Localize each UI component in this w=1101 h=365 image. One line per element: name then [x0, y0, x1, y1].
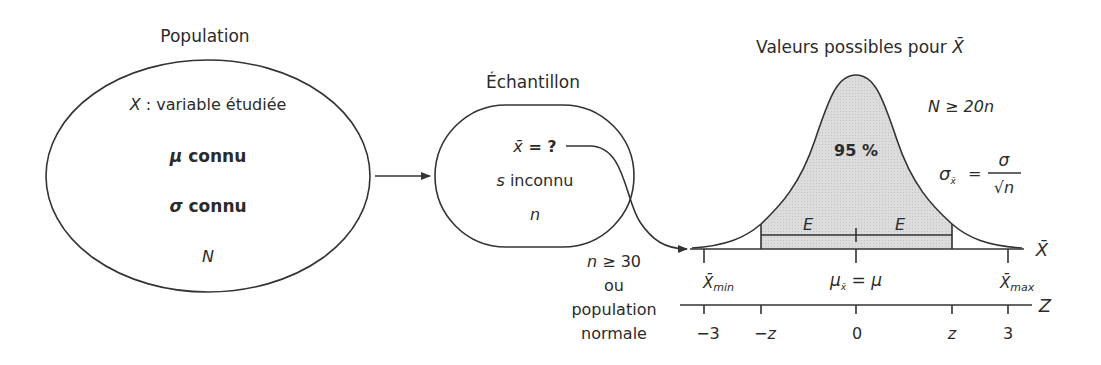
distribution-title-text: Valeurs possibles pour: [756, 37, 947, 57]
sigma-text: connu: [183, 196, 247, 216]
population-title: Population: [160, 26, 249, 46]
s-symbol: s: [496, 171, 504, 190]
std-error-denominator: √n: [994, 178, 1014, 197]
clt-condition: n ≥ 30 ou population normale: [571, 252, 656, 343]
mu-symbol: μ: [169, 146, 183, 166]
sample-size: n: [530, 205, 540, 224]
condition-line-2: ou: [604, 276, 624, 295]
finite-population-condition: N ≥ 20n: [928, 97, 994, 116]
xbar-max-symbol: X̄: [999, 273, 1011, 292]
distribution-title-symbol: X̄: [951, 36, 964, 57]
z-label-0: 0: [852, 324, 862, 343]
population-size: N: [202, 247, 214, 266]
s-text: inconnu: [505, 171, 574, 190]
condition-line-1: n ≥ 30: [587, 252, 641, 271]
sample-mean-unknown: x̄ = ?: [512, 137, 556, 156]
condition-line-3: population: [571, 300, 656, 319]
distribution-title: Valeurs possibles pour X̄: [756, 36, 964, 57]
population-sigma-known: σ connu: [169, 196, 246, 216]
xbar-axis-label: X̄: [1035, 239, 1049, 260]
arrow-sample-to-distribution: [566, 146, 687, 249]
sample-group: Échantillon x̄ = ? s inconnu n: [435, 71, 634, 247]
population-variable: X : variable étudiée: [129, 95, 287, 114]
condition-n-symbol: n: [587, 252, 597, 271]
std-error-subscript: x̄: [949, 176, 956, 186]
xbar-max-label: X̄max: [999, 273, 1035, 294]
condition-line-4: normale: [581, 324, 647, 343]
mu-text: connu: [182, 146, 246, 166]
std-error-lhs: σx̄: [939, 163, 956, 186]
population-group: Population X : variable étudiée μ connu …: [46, 26, 370, 292]
z-axis-label: Z: [1038, 295, 1052, 316]
mu-xbar-rhs: = μ: [846, 270, 882, 290]
margin-right-label: E: [895, 215, 906, 234]
std-error-sigma: σ: [939, 163, 951, 184]
xbar-min-sub: min: [713, 281, 734, 294]
std-error-numerator: σ: [999, 150, 1011, 170]
xbar-center-label: μx̄ = μ: [829, 270, 882, 292]
population-mu-known: μ connu: [169, 146, 247, 166]
margin-left-label: E: [803, 215, 814, 234]
std-error-equals: =: [968, 164, 981, 183]
z-label-3: 3: [1003, 324, 1013, 343]
sample-s-unknown: s inconnu: [496, 171, 573, 190]
xbar-min-symbol: X̄: [702, 273, 714, 292]
area-label: 95 %: [834, 141, 878, 160]
z-label-z: z: [947, 324, 957, 343]
xbar-max-sub: max: [1010, 281, 1034, 294]
variable-text: : variable étudiée: [141, 95, 287, 114]
sample-mean-text: = ?: [523, 137, 557, 156]
condition-n-text: ≥ 30: [597, 252, 641, 271]
sample-mean-symbol: x̄: [512, 137, 523, 156]
sigma-symbol: σ: [169, 196, 183, 216]
mu-xbar-symbol: μ: [829, 270, 841, 290]
confidence-area: [761, 75, 952, 249]
z-label-minus-3: −3: [696, 324, 720, 343]
sampling-distribution-diagram: Population X : variable étudiée μ connu …: [0, 0, 1101, 365]
z-label-minus-z: −z: [754, 324, 776, 343]
sample-title: Échantillon: [486, 71, 580, 92]
standard-error-formula: σx̄ = σ √n: [939, 150, 1021, 197]
distribution-group: Valeurs possibles pour X̄ E E 95 % N ≥ 2…: [680, 36, 1052, 343]
xbar-min-label: X̄min: [702, 273, 734, 294]
